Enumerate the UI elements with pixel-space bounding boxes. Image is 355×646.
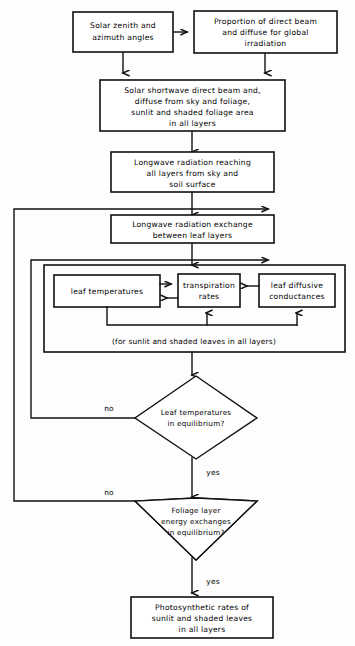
node-photosynthetic-rates: Photosynthetic rates of sunlit and shade…	[131, 597, 273, 638]
node-label-line: Longwave radiation exchange	[132, 220, 253, 229]
edge-label-no-1: no	[104, 404, 114, 413]
node-label-line: Photosynthetic rates of	[155, 603, 249, 612]
edge-label-yes-2: yes	[206, 577, 219, 586]
node-label-line: rates	[199, 292, 220, 301]
node-solar-zenith-azimuth: Solar zenith and azimuth angles	[73, 12, 173, 52]
node-label-line: soil surface	[169, 180, 215, 189]
node-foliage-layer-energy-equilibrium: Foliage layer energy exchanges in equili…	[135, 498, 257, 560]
node-label-line: sunlit and shaded foliage area	[131, 108, 254, 117]
sunlit-shaded-caption: (for sunlit and shaded leaves in all lay…	[112, 337, 276, 346]
edge-label-no-2: no	[104, 488, 114, 497]
node-leaf-temperatures: leaf temperatures	[54, 275, 160, 307]
node-label-line: Solar shortwave direct beam and,	[124, 86, 261, 95]
node-label-line: Solar zenith and	[90, 21, 156, 30]
flowchart-svg: Solar zenith and azimuth angles Proporti…	[0, 0, 355, 646]
node-label-line: energy exchanges	[161, 517, 231, 526]
node-label-line: azimuth angles	[92, 33, 154, 42]
node-label-line: Foliage layer	[171, 506, 220, 515]
node-solar-shortwave: Solar shortwave direct beam and, diffuse…	[100, 80, 285, 131]
node-label-line: leaf temperatures	[71, 287, 143, 296]
node-label-line: transpiration	[183, 281, 235, 290]
node-proportion-direct-diffuse: Proportion of direct beam and diffuse fo…	[194, 11, 337, 53]
node-label-line: and diffuse for global	[222, 28, 308, 37]
node-label-line: Proportion of direct beam	[214, 17, 317, 26]
node-label-line: all layers from sky and	[147, 169, 239, 178]
node-transpiration-rates: transpiration rates	[178, 274, 240, 307]
node-label-line: Leaf temperatures	[161, 408, 232, 417]
node-label-line: between leaf layers	[153, 231, 233, 240]
node-label-line: sunlit and shaded leaves	[152, 614, 253, 623]
node-label-line: in equilibrium?	[167, 528, 224, 537]
node-label-line: in equilibrium?	[167, 419, 224, 428]
edge-label-yes-1: yes	[206, 468, 219, 477]
node-leaf-diffusive-conductances: leaf diffusive conductances	[259, 274, 335, 307]
edge-leaftemp-feedback-rail	[107, 307, 297, 325]
node-label-line: in all layers	[169, 119, 216, 128]
node-label-line: Longwave radiation reaching	[134, 158, 251, 167]
node-label-line: conductances	[269, 292, 325, 301]
node-longwave-radiation-exchange: Longwave radiation exchange between leaf…	[111, 215, 274, 243]
node-longwave-radiation-reaching: Longwave radiation reaching all layers f…	[111, 152, 274, 192]
node-leaf-temperatures-equilibrium: Leaf temperatures in equilibrium?	[135, 376, 257, 459]
node-label-line: diffuse from sky and foliage,	[135, 97, 250, 106]
node-label-line: leaf diffusive	[271, 281, 323, 290]
node-label-line: in all layers	[179, 625, 226, 634]
flowchart-canvas: Solar zenith and azimuth angles Proporti…	[0, 0, 355, 646]
leaf-process-group: leaf temperatures transpiration rates le…	[44, 265, 345, 352]
node-label-line: irradiation	[245, 39, 287, 48]
edge-foliage-no-loop	[14, 209, 268, 501]
